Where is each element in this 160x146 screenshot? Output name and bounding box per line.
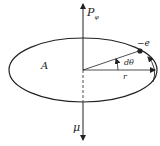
radius-label: r	[123, 72, 128, 81]
angle-arc	[116, 59, 118, 70]
electron-dot	[137, 48, 142, 53]
charge-label: −e	[137, 38, 150, 48]
p-phi-label: Pφ	[86, 6, 99, 21]
angle-label: dθ	[124, 58, 134, 67]
moment-label: μ	[73, 121, 80, 134]
orbit-diagram: Pφ A −e dθ r μ	[0, 0, 160, 146]
area-label: A	[40, 60, 48, 71]
